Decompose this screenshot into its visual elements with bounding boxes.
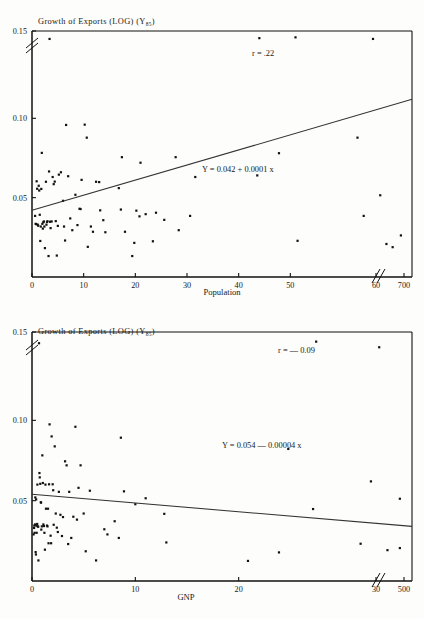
data-point <box>56 254 58 256</box>
data-point <box>85 550 87 552</box>
data-point <box>106 533 108 535</box>
data-point <box>386 549 388 551</box>
data-point <box>56 527 58 529</box>
data-point <box>33 532 35 534</box>
data-point <box>315 341 317 343</box>
data-point <box>89 490 91 492</box>
regression-line-bottom <box>32 494 412 526</box>
y-tick-label: 0.05 <box>13 497 27 506</box>
data-point <box>50 542 52 544</box>
x-tick-label: 10 <box>131 585 139 594</box>
data-point <box>59 514 61 516</box>
data-point <box>39 483 41 485</box>
chart-panel-population: Growth of Exports (LOG) (Y85) 0.050.100.… <box>0 0 424 310</box>
data-point <box>34 496 36 498</box>
data-point <box>34 215 36 217</box>
data-point <box>54 445 56 447</box>
data-point <box>72 516 74 518</box>
data-point <box>103 528 105 530</box>
data-point <box>63 225 65 227</box>
x-tick-label: 50 <box>286 281 294 290</box>
data-point <box>70 537 72 539</box>
data-point <box>52 176 54 178</box>
data-point <box>37 559 39 561</box>
data-point <box>39 214 41 216</box>
data-point <box>138 215 140 217</box>
data-point <box>123 490 125 492</box>
data-point <box>81 179 83 181</box>
data-point <box>65 124 67 126</box>
data-point <box>133 242 135 244</box>
chart-title-group-top: Growth of Exports (LOG) (Y85) <box>38 17 155 27</box>
y-tick-label: 0.15 <box>13 328 27 337</box>
data-point <box>37 225 39 227</box>
data-point <box>120 208 122 210</box>
data-point <box>52 489 54 491</box>
x-tick-label: 20 <box>235 585 243 594</box>
data-point <box>194 176 196 178</box>
data-point <box>399 547 401 549</box>
data-point <box>67 543 69 545</box>
data-point <box>57 531 59 533</box>
data-point <box>47 542 49 544</box>
data-point <box>124 231 126 233</box>
data-point <box>58 174 60 176</box>
data-point <box>36 180 38 182</box>
data-point <box>55 512 57 514</box>
data-point <box>77 487 79 489</box>
x-axis-title-bottom: GNP <box>177 592 194 602</box>
data-point-group-top <box>34 36 402 257</box>
data-point <box>67 175 69 177</box>
data-point <box>163 513 165 515</box>
data-point <box>44 247 46 249</box>
data-point <box>36 523 38 525</box>
data-point-group-bottom <box>32 341 401 562</box>
data-point <box>35 551 37 553</box>
y-tick-label: 0.10 <box>13 416 27 425</box>
chart-panel-gnp: Growth of Exports (LOG) (Y85) 0.050.100.… <box>0 310 424 619</box>
data-point <box>278 551 280 553</box>
data-point <box>36 484 38 486</box>
data-point <box>50 535 52 537</box>
data-point <box>53 183 55 185</box>
data-point <box>74 426 76 428</box>
scatter-plot-gnp: Growth of Exports (LOG) (Y85) 0.050.100.… <box>0 310 424 619</box>
data-point <box>258 37 260 39</box>
data-point <box>399 498 401 500</box>
x-axis-tick-labels-bottom: 0102030500 <box>30 585 410 594</box>
data-point <box>50 227 52 229</box>
data-point <box>87 246 89 248</box>
x-tick-label: 0 <box>30 585 34 594</box>
data-point <box>44 484 46 486</box>
data-point <box>84 124 86 126</box>
data-point <box>46 525 48 527</box>
y-axis-tick-labels-top: 0.050.100.15 <box>13 27 27 203</box>
data-point <box>61 535 63 537</box>
data-point <box>42 482 44 484</box>
data-point <box>370 480 372 482</box>
data-point <box>163 219 165 221</box>
data-point <box>57 225 59 227</box>
x-axis-title-top: Population <box>203 287 241 297</box>
data-point <box>145 213 147 215</box>
data-point <box>152 240 154 242</box>
data-point <box>47 508 49 510</box>
data-point <box>118 187 120 189</box>
regression-equation-bottom: Y = 0.054 — 0.00004 x <box>222 441 302 450</box>
data-point <box>175 156 177 158</box>
scatter-plot-population: Growth of Exports (LOG) (Y85) 0.050.100.… <box>0 0 424 310</box>
data-point <box>48 423 50 425</box>
data-point <box>54 181 56 183</box>
data-point <box>45 508 47 510</box>
data-point <box>64 460 66 462</box>
data-point <box>392 246 394 248</box>
data-point <box>76 224 78 226</box>
data-point <box>256 174 258 176</box>
data-point <box>46 220 48 222</box>
data-point <box>99 209 101 211</box>
data-point <box>247 560 249 562</box>
y-tick-label: 0.15 <box>13 27 27 36</box>
data-point <box>47 255 49 257</box>
y-tick-label: 0.05 <box>13 194 27 203</box>
data-point <box>131 255 133 257</box>
